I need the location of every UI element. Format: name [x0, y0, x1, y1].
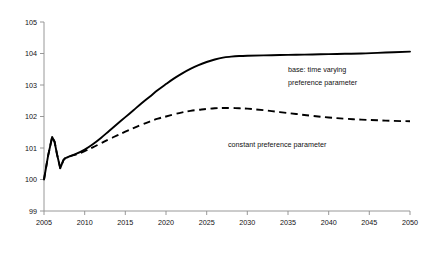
x-tick-label: 2040: [321, 218, 337, 227]
y-tick-label: 101: [25, 144, 37, 153]
series-line-base-time-varying: [44, 52, 410, 180]
series-line-constant-preference: [44, 108, 410, 180]
x-tick-label: 2035: [280, 218, 296, 227]
annotation-constant: constant preference parameter: [228, 140, 327, 149]
annotation-base-line1: base: time varying: [288, 65, 346, 74]
x-tick-label: 2025: [199, 218, 215, 227]
x-axis-tick-labels: 2005 2010 2015 2020 2025 2030 2035 2040 …: [36, 218, 418, 227]
x-tick-label: 2010: [77, 218, 93, 227]
y-axis-tick-labels: 99 100 101 102 103 104 105: [25, 18, 37, 216]
x-tick-label: 2005: [36, 218, 52, 227]
x-tick-label: 2020: [158, 218, 174, 227]
annotation-base-line2: preference parameter: [288, 78, 358, 87]
x-axis-ticks: [44, 211, 410, 215]
x-tick-label: 2015: [117, 218, 133, 227]
y-tick-label: 105: [25, 18, 37, 27]
y-tick-label: 103: [25, 81, 37, 90]
x-tick-label: 2045: [361, 218, 377, 227]
y-axis-ticks: [40, 22, 44, 211]
annotation-constant-line1: constant preference parameter: [228, 140, 327, 149]
annotation-base: base: time varying preference parameter: [288, 65, 358, 87]
x-tick-label: 2030: [239, 218, 255, 227]
y-tick-label: 100: [25, 175, 37, 184]
x-tick-label: 2050: [402, 218, 418, 227]
y-tick-label: 102: [25, 112, 37, 121]
line-chart: 99 100 101 102 103 104 105 2005 2010 201…: [0, 0, 432, 256]
y-tick-label: 104: [25, 49, 37, 58]
y-tick-label: 99: [29, 207, 37, 216]
chart-container: 99 100 101 102 103 104 105 2005 2010 201…: [0, 0, 432, 256]
